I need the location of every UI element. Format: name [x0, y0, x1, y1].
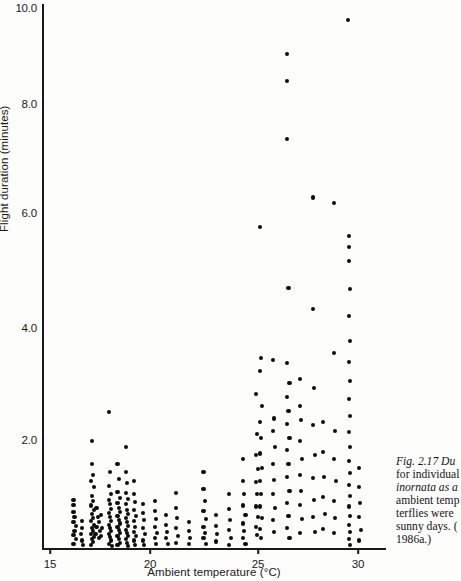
data-point: [124, 502, 128, 506]
y-tick-4: 4.0: [22, 322, 37, 334]
data-point: [298, 377, 302, 381]
data-point: [321, 495, 325, 499]
data-point: [71, 498, 75, 502]
data-point: [134, 514, 138, 518]
data-point: [175, 516, 179, 520]
data-point: [348, 530, 352, 534]
data-point: [332, 531, 336, 535]
data-point: [117, 477, 121, 481]
data-point: [71, 503, 75, 507]
data-point: [298, 439, 302, 443]
data-point: [80, 526, 84, 530]
y-tick-10: 10.0: [15, 2, 37, 14]
data-point: [259, 356, 263, 360]
data-point: [272, 416, 276, 420]
data-point: [126, 544, 130, 548]
data-point: [92, 485, 96, 489]
data-point: [133, 543, 137, 547]
scatter-points-layer: [42, 4, 386, 550]
data-point: [271, 492, 275, 496]
data-point: [347, 459, 351, 463]
data-point: [298, 473, 302, 477]
data-point: [311, 307, 315, 311]
data-point: [334, 479, 338, 483]
data-point: [321, 450, 325, 454]
x-tickmark-20: [149, 550, 151, 554]
data-point: [259, 536, 263, 540]
data-point: [176, 534, 180, 538]
data-point: [154, 517, 158, 521]
data-point: [241, 536, 245, 540]
data-point: [254, 392, 258, 396]
caption-figure-label: Fig. 2.17 Du: [396, 455, 455, 468]
data-point: [332, 351, 336, 355]
data-point: [313, 530, 317, 534]
data-point: [273, 445, 277, 449]
data-point: [143, 532, 147, 536]
data-point: [94, 506, 98, 510]
caption-line-7: 1986a.): [396, 533, 461, 546]
y-axis-title: Flight duration (minutes): [0, 106, 10, 233]
data-point: [132, 492, 136, 496]
data-point: [259, 492, 263, 496]
data-point: [298, 503, 302, 507]
data-point: [187, 529, 191, 533]
caption-line-2: for individual: [396, 468, 461, 481]
data-point: [89, 543, 93, 547]
data-point: [174, 491, 178, 495]
data-point: [141, 538, 145, 542]
data-point: [348, 339, 352, 343]
data-point: [80, 519, 84, 523]
data-point: [347, 259, 351, 263]
data-point: [108, 502, 112, 506]
data-point: [271, 462, 275, 466]
data-point: [115, 501, 119, 505]
data-point: [311, 423, 315, 427]
data-point: [332, 499, 336, 503]
data-point: [347, 504, 351, 508]
data-point: [118, 496, 122, 500]
data-point: [132, 479, 136, 483]
data-point: [187, 520, 191, 524]
data-point: [285, 361, 289, 365]
data-point: [258, 225, 262, 229]
data-point: [285, 422, 289, 426]
data-point: [271, 429, 275, 433]
data-point: [142, 543, 146, 547]
data-point: [241, 521, 245, 525]
data-point: [215, 532, 219, 536]
data-point: [164, 513, 168, 517]
data-point: [124, 491, 128, 495]
data-point: [107, 484, 111, 488]
data-point: [227, 492, 231, 496]
data-point: [258, 420, 262, 424]
data-point: [258, 369, 262, 373]
data-point: [286, 409, 290, 413]
data-point: [94, 525, 98, 529]
data-point: [311, 476, 315, 480]
data-point: [287, 436, 291, 440]
data-point: [311, 195, 315, 199]
data-point: [107, 498, 111, 502]
data-point: [243, 542, 247, 546]
data-point: [227, 543, 231, 547]
data-point: [260, 404, 264, 408]
data-point: [286, 462, 290, 466]
x-tickmark-30: [357, 550, 359, 554]
data-point: [187, 542, 191, 546]
data-point: [201, 525, 205, 529]
data-point: [141, 511, 145, 515]
data-point: [287, 489, 291, 493]
data-point: [347, 523, 351, 527]
data-point: [258, 504, 262, 508]
data-point: [89, 479, 93, 483]
data-point: [153, 536, 157, 540]
data-point: [90, 494, 94, 498]
data-point: [285, 395, 289, 399]
data-point: [214, 513, 218, 517]
data-point: [285, 137, 289, 141]
data-point: [348, 471, 352, 475]
data-point: [174, 506, 178, 510]
data-point: [81, 543, 85, 547]
y-tick-8: 8.0: [22, 98, 37, 110]
